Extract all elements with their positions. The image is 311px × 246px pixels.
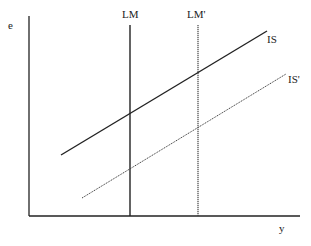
is-curve: [61, 31, 267, 155]
y-axis-label: e: [8, 19, 13, 31]
diagram-svg: e y LM LM' IS IS': [0, 0, 311, 246]
is-label: IS: [267, 33, 277, 45]
is-lm-diagram: e y LM LM' IS IS': [0, 0, 311, 246]
is-prime-label: IS': [288, 73, 300, 85]
lm-label: LM: [122, 8, 139, 20]
x-axis-label: y: [279, 222, 285, 234]
lm-prime-label: LM': [187, 8, 206, 20]
is-prime-curve: [82, 74, 286, 198]
